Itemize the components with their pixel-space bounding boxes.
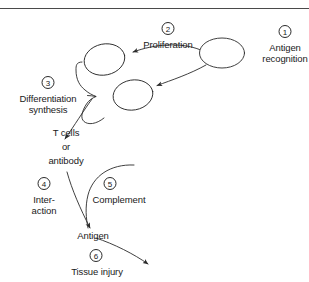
tissue-injury-label: Tissue injury <box>71 266 123 277</box>
proliferation-label: Proliferation <box>143 39 192 50</box>
differentiation-label-line2: synthesis <box>29 104 68 115</box>
antigen-recognition-label-line1: Antigen <box>269 42 301 53</box>
complement-label: Complement <box>93 194 146 205</box>
step-number-5: 5 <box>104 177 117 190</box>
step-number-4: 4 <box>38 177 51 190</box>
product-label-line1: T cells <box>53 127 80 138</box>
presenting-cell-ellipse <box>200 38 245 68</box>
antigen-recognition-label-line2: recognition <box>262 53 307 64</box>
differentiation-label-line1: Differentiation <box>20 93 77 104</box>
step-number-1: 1 <box>279 25 292 38</box>
product-label-line3: antibody <box>48 155 83 166</box>
tissue-injury-arrow <box>96 238 148 264</box>
immune-response-figure: 1 Antigen recognition 2 Proliferation 3 … <box>0 0 309 282</box>
daughter-cell-lower-ellipse <box>111 77 156 113</box>
step-number-6: 6 <box>90 249 103 262</box>
antigen-label: Antigen <box>77 230 109 241</box>
product-label-line2: or <box>62 141 70 152</box>
interaction-label-line2: action <box>32 205 57 216</box>
step-number-2: 2 <box>162 22 175 35</box>
proliferation-arrow-lower <box>157 65 206 86</box>
step-number-3: 3 <box>42 76 55 89</box>
daughter-cell-upper-ellipse <box>81 40 128 79</box>
interaction-label-line1: Inter- <box>33 194 55 205</box>
